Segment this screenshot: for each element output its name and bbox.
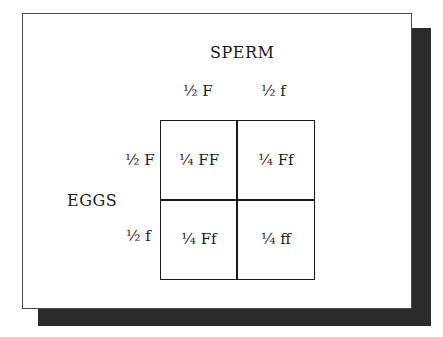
row-label-1: ½ F (125, 153, 155, 168)
cell-ff: ¼ ff (238, 200, 314, 278)
eggs-header: EGGS (67, 193, 117, 209)
sperm-header: SPERM (210, 45, 274, 61)
cell-Ff-bottom: ¼ Ff (161, 200, 237, 278)
row-label-2: ½ f (126, 229, 151, 244)
column-label-2: ½ f (261, 84, 286, 99)
column-label-1: ½ F (183, 84, 213, 99)
cell-FF: ¼ FF (161, 121, 237, 199)
cell-Ff-top: ¼ Ff (238, 121, 314, 199)
